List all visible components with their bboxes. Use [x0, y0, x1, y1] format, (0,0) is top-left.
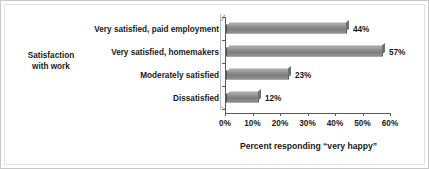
axis-depth-edge — [220, 14, 221, 110]
bar-side-face — [346, 19, 349, 31]
x-tick-label: 10% — [244, 119, 260, 128]
value-label: 23% — [295, 70, 311, 79]
category-label: Moderately satisfied — [140, 70, 219, 79]
y-axis-title-line-2: with work — [15, 62, 87, 73]
bar-top-face — [227, 45, 385, 48]
value-label: 57% — [389, 47, 405, 56]
value-tick — [363, 113, 364, 116]
x-tick-label: 40% — [327, 119, 343, 128]
x-tick-label: 50% — [354, 119, 370, 128]
category-label: Very satisfied, homemakers — [111, 47, 219, 56]
value-tick — [390, 113, 391, 116]
category-tick — [222, 86, 225, 87]
bar-side-face — [288, 65, 291, 77]
value-tick — [253, 113, 254, 116]
value-tick — [225, 113, 226, 116]
bar-top-face — [227, 22, 349, 25]
category-tick — [222, 109, 225, 110]
bar-top-face — [227, 91, 261, 94]
bar — [226, 70, 289, 79]
x-axis-title: Percent responding “very happy” — [201, 141, 416, 151]
bar-side-face — [382, 42, 385, 54]
category-tick — [222, 63, 225, 64]
bar-chart: Satisfaction with work Very satisfied, p… — [0, 0, 429, 169]
y-axis-title-line-1: Satisfaction — [15, 51, 87, 62]
bar-side-face — [258, 88, 261, 100]
bar-top-face — [227, 68, 291, 71]
x-tick-label: 30% — [299, 119, 315, 128]
x-tick-label: 60% — [382, 119, 398, 128]
category-label: Very satisfied, paid employment — [94, 24, 219, 33]
bar — [226, 93, 259, 102]
category-tick — [222, 40, 225, 41]
category-tick — [222, 17, 225, 18]
value-tick — [335, 113, 336, 116]
value-tick — [308, 113, 309, 116]
category-label: Dissatisfied — [173, 93, 219, 102]
bar — [226, 24, 347, 33]
x-tick-label: 20% — [272, 119, 288, 128]
plot-area: Very satisfied, paid employment 44% Very… — [225, 21, 393, 113]
bar — [226, 47, 383, 56]
x-tick-label: 0% — [219, 119, 231, 128]
y-axis-title: Satisfaction with work — [15, 51, 87, 72]
value-tick — [280, 113, 281, 116]
value-label: 44% — [353, 24, 369, 33]
value-label: 12% — [265, 93, 281, 102]
